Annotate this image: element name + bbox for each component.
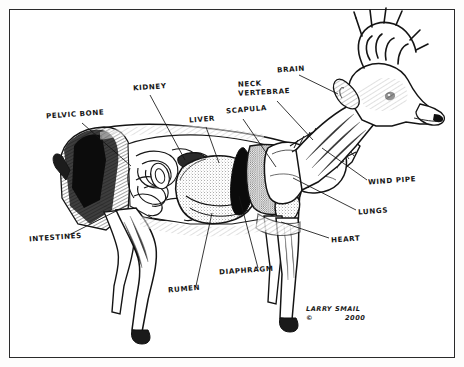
signature-year: 2000	[345, 314, 365, 322]
brain-leader	[299, 75, 338, 94]
label-neck-vertebrae: NECK VERTEBRAE	[238, 77, 291, 98]
label-liver: LIVER	[189, 114, 216, 125]
neck-vertebrae-leader	[277, 101, 313, 140]
copyright-mark: ©	[306, 314, 313, 322]
artist-signature: LARRY SMAIL	[306, 305, 361, 313]
illustration-canvas: PELVIC BONEKIDNEYLIVERSCAPULANECK VERTEB…	[0, 0, 464, 367]
antlers	[354, 8, 428, 68]
